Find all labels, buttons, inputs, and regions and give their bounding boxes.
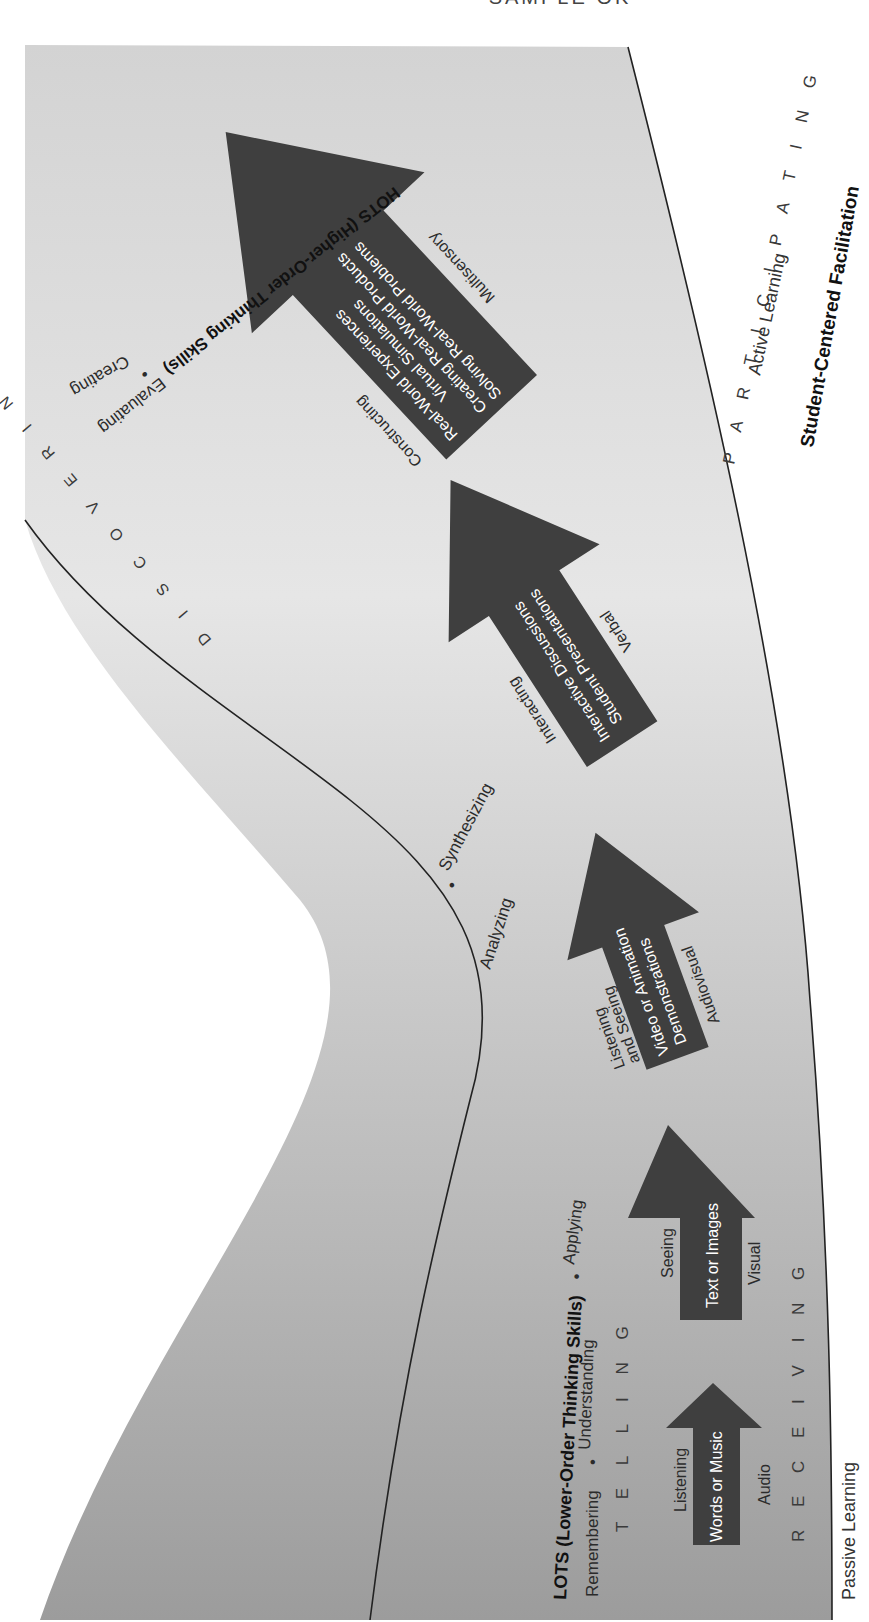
mode-telling: T E L L I N G [613,1317,632,1532]
arrow-2-text: Text or Images [704,1203,721,1308]
skill-remembering: Remembering [583,1490,602,1597]
arrow-1-text: Words or Music [708,1431,725,1542]
skill-separator: • [583,1459,602,1465]
passive-learning-label: Passive Learning [839,1462,859,1600]
arrow-2-top-label: Seeing [659,1228,676,1278]
arrow-1-bottom-label: Audio [756,1464,773,1505]
student-centered-label: Student-Centered Facilitation [796,184,863,449]
mode-receiving: R E C E I V I N G [789,1258,808,1542]
learning-continuum-diagram: SAMPLE OK Words or Music Listening Audio… [0,0,869,1622]
arrow-2-bottom-label: Visual [746,1242,763,1285]
top-cut-text: SAMPLE OK [489,0,632,8]
arrow-1-top-label: Listening [672,1448,689,1512]
